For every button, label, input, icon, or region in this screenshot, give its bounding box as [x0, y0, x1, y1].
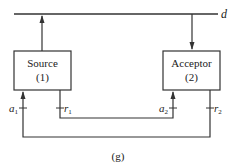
label-a1: a1 — [9, 102, 19, 116]
arrowhead-up-icon — [21, 91, 26, 99]
acceptor-title: Acceptor — [171, 57, 212, 69]
a1-a2-outer-loop — [23, 90, 210, 137]
label-a2: a2 — [159, 102, 169, 116]
bus-label-d: d — [221, 7, 228, 21]
label-r2: r2 — [214, 102, 222, 116]
source-title: Source — [27, 57, 58, 69]
source-acceptor-diagram: d Source (1) Acceptor (2) a1 r1 a2 r2 (g… — [0, 0, 236, 167]
arrowhead-up-icon — [171, 91, 176, 99]
source-number: (1) — [36, 71, 49, 84]
r1-a2-inner-loop — [60, 90, 173, 118]
label-r1: r1 — [64, 102, 72, 116]
figure-caption: (g) — [112, 150, 125, 163]
arrowhead-up-icon — [40, 15, 45, 23]
acceptor-number: (2) — [185, 71, 198, 84]
arrowhead-down-icon — [190, 42, 195, 50]
